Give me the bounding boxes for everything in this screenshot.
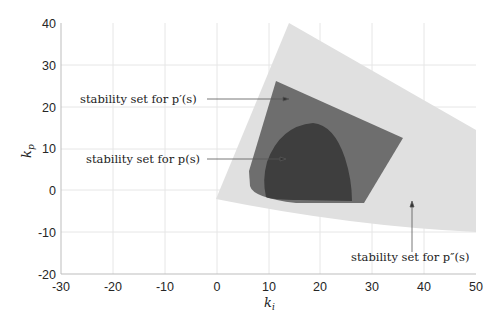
y-tick-labels: 40 30 20 10 0 -10 -20	[38, 17, 56, 282]
svg-text:-10: -10	[156, 280, 174, 294]
svg-text:0: 0	[49, 184, 56, 198]
svg-text:-20: -20	[104, 280, 122, 294]
svg-text:40: 40	[42, 17, 56, 31]
svg-text:30: 30	[365, 280, 379, 294]
svg-text:10: 10	[262, 280, 276, 294]
annotation-p-prime: stability set for p′(s)	[80, 92, 197, 106]
x-tick-labels: -30 -20 -10 0 10 20 30 40 50	[52, 280, 483, 294]
svg-text:20: 20	[42, 101, 56, 115]
annotation-p-double-prime: stability set for p″(s)	[351, 250, 469, 264]
svg-text:30: 30	[42, 59, 56, 73]
svg-text:-10: -10	[38, 226, 56, 240]
svg-text:-30: -30	[52, 280, 70, 294]
svg-text:10: 10	[42, 142, 56, 156]
annotation-p: stability set for p(s)	[86, 152, 200, 166]
y-axis-label: kp	[19, 144, 36, 158]
svg-text:50: 50	[469, 280, 483, 294]
x-axis-label: ki	[264, 295, 275, 312]
svg-text:40: 40	[417, 280, 431, 294]
chart-root: stability set for p′(s) stability set fo…	[0, 0, 504, 323]
svg-text:20: 20	[313, 280, 327, 294]
svg-text:0: 0	[214, 280, 221, 294]
